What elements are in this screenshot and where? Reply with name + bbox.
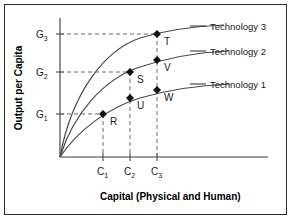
point-label-w: W xyxy=(164,92,174,103)
point-label-v: V xyxy=(164,62,171,73)
marker-point-t xyxy=(153,30,161,38)
x-tick-label-c1: C1 xyxy=(97,166,108,179)
data-point-markers xyxy=(99,30,161,118)
production-function-chart: R U W S V T G3 G2 G1 C1 C2 xyxy=(0,0,292,220)
point-label-r: R xyxy=(110,116,117,127)
series-labels: Technology 3 Technology 2 Technology 1 xyxy=(210,21,266,90)
x-tick-label-c3: C3 xyxy=(151,166,162,179)
figure-container: R U W S V T G3 G2 G1 C1 C2 xyxy=(0,0,292,220)
y-tick-label-g1: G1 xyxy=(36,109,48,122)
point-label-u: U xyxy=(137,100,144,111)
data-point-labels: R U W S V T xyxy=(110,36,174,127)
curve-technology-3 xyxy=(60,25,224,157)
y-axis-tick-labels: G3 G2 G1 xyxy=(36,29,48,122)
curve-technology-1 xyxy=(60,84,230,157)
series-label-technology-2: Technology 2 xyxy=(210,46,266,57)
x-tick-label-c2: C2 xyxy=(124,166,135,179)
x-axis-title: Capital (Physical and Human) xyxy=(100,191,241,202)
y-axis-title: Output per Capita xyxy=(13,45,24,130)
x-axis-tick-labels: C1 C2 C3 xyxy=(97,166,162,179)
point-label-s: S xyxy=(137,74,144,85)
y-tick-label-g3: G3 xyxy=(36,29,48,42)
series-label-technology-3: Technology 3 xyxy=(210,21,266,32)
series-label-technology-1: Technology 1 xyxy=(210,79,266,90)
point-label-t: T xyxy=(164,36,170,47)
y-tick-label-g2: G2 xyxy=(36,67,48,80)
technology-curves xyxy=(60,25,230,157)
